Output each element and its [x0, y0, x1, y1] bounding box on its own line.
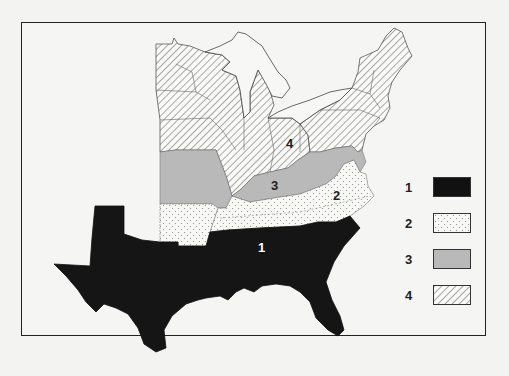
legend-item-4: 4 [405, 285, 471, 305]
swatch-dotted-icon [433, 213, 471, 233]
legend-item-3: 3 [405, 249, 471, 269]
swatch-solid-black-icon [433, 177, 471, 197]
swatch-solid-gray-icon [433, 249, 471, 269]
map-label-2: 2 [333, 188, 340, 203]
legend-label: 4 [405, 288, 433, 303]
swatch-diagonal-hatch-icon [433, 285, 471, 305]
map-label-1: 1 [258, 240, 265, 255]
legend-label: 2 [405, 216, 433, 231]
legend-item-2: 2 [405, 213, 471, 233]
map-label-4: 4 [286, 136, 293, 151]
legend-item-1: 1 [405, 177, 471, 197]
legend-label: 3 [405, 252, 433, 267]
map-label-3: 3 [271, 178, 278, 193]
legend-label: 1 [405, 180, 433, 195]
